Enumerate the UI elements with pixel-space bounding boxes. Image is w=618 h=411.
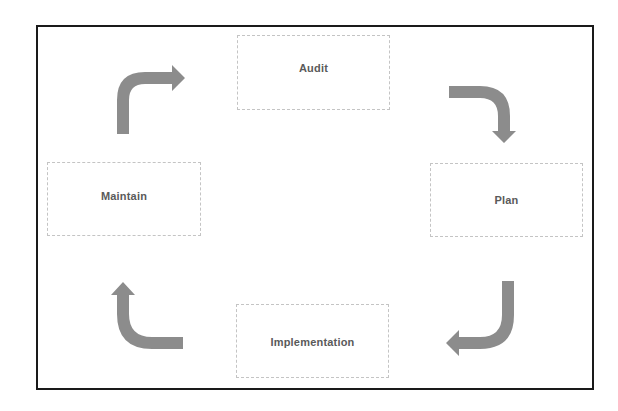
- arrow-implementation-to-maintain-icon: [111, 282, 183, 349]
- arrow-maintain-to-audit-icon: [117, 65, 185, 134]
- arrow-plan-to-implementation-icon: [446, 281, 514, 356]
- arrow-audit-to-plan-icon: [449, 86, 516, 143]
- flow-arrows: [0, 0, 618, 411]
